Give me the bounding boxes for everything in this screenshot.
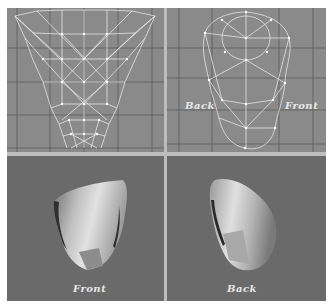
label-front-render: Front bbox=[73, 283, 106, 294]
label-back: Back bbox=[185, 100, 215, 111]
label-back-render: Back bbox=[227, 283, 257, 294]
wireframe-mesh-side bbox=[7, 8, 164, 152]
wireframe-top-view-panel: Back Front bbox=[167, 8, 326, 152]
wireframe-mesh-top bbox=[167, 8, 326, 152]
shaded-model-back bbox=[167, 156, 326, 301]
shaded-model-front bbox=[7, 156, 164, 301]
label-front: Front bbox=[285, 100, 318, 111]
wireframe-side-view-panel bbox=[7, 8, 164, 152]
render-front-panel: Front bbox=[7, 156, 164, 301]
render-back-panel: Back bbox=[167, 156, 326, 301]
figure: Back Front Front bbox=[7, 8, 326, 301]
